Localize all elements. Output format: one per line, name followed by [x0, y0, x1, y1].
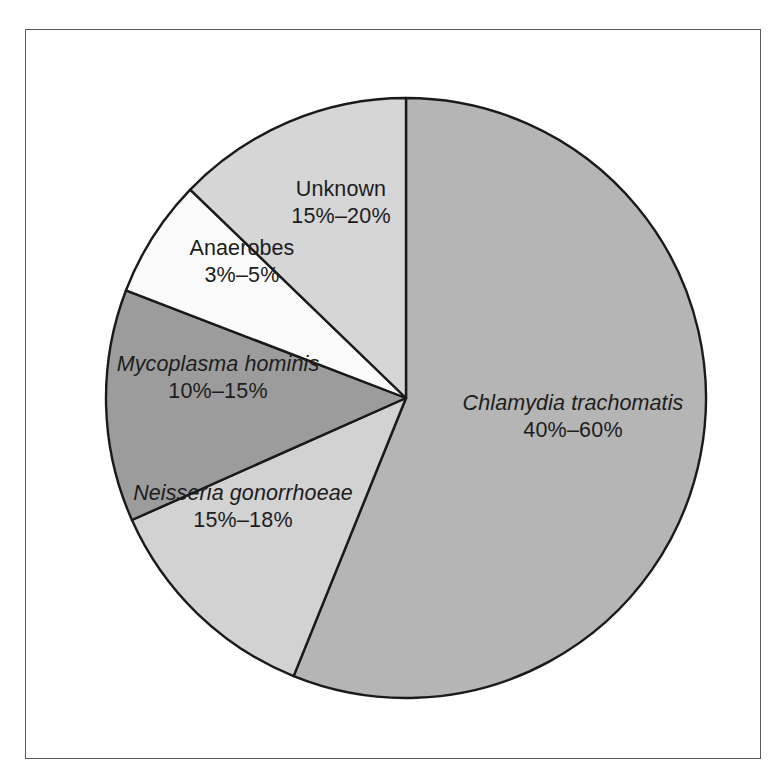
pie-chart: Chlamydia trachomatis 40%–60% Unknown 15…: [0, 0, 782, 773]
figure-root: Chlamydia trachomatis 40%–60% Unknown 15…: [0, 0, 782, 773]
pie-chart-svg: [0, 0, 782, 773]
